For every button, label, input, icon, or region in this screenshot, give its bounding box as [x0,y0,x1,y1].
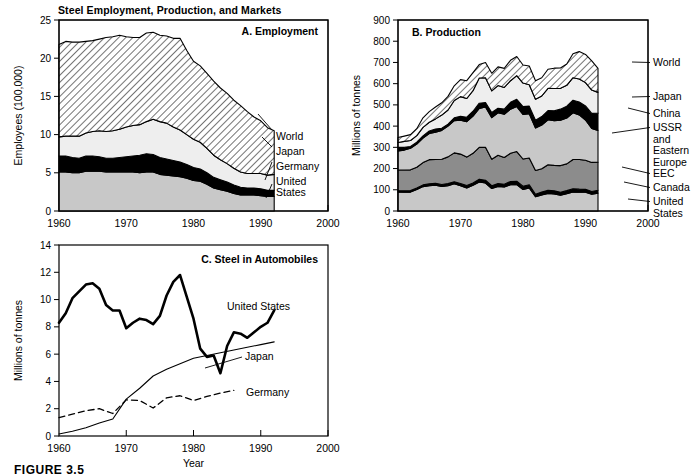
legend-leader [632,62,650,63]
panel-c-steel-in-automobiles: 0246810121419601970198019902000C. Steel … [0,232,360,475]
y-tick-label: 0 [45,206,51,217]
y-tick-label: 10 [40,294,52,305]
y-tick-label: 12 [40,267,52,278]
y-tick-label: 200 [373,163,390,174]
legend-label-b-united: States [653,207,683,219]
y-tick-label: 600 [373,78,390,89]
x-tick-label: 2000 [316,442,340,454]
x-tick-label: 1980 [511,217,535,229]
y-tick-label: 100 [373,184,390,195]
y-axis-label: Employees (100,000) [12,66,24,166]
figure-caption: FIGURE 3.5 [14,463,84,475]
x-tick-label: 1990 [249,442,273,454]
y-tick-label: 10 [40,129,52,140]
legend-leader [632,97,650,98]
y-tick-label: 0 [384,206,390,217]
legend-label-b-japan: Japan [653,90,682,102]
legend-label-b-ussr: Europe [653,156,687,168]
y-tick-label: 900 [373,15,390,26]
chart-b-svg: 0100200300400500600700800900196019701980… [340,0,692,232]
plot-frame [59,245,328,436]
y-tick-label: 4 [45,376,51,387]
x-tick-label: 1960 [47,217,71,229]
y-tick-label: 400 [373,121,390,132]
panel-b-production: 0100200300400500600700800900196019701980… [340,0,692,232]
panel-a-employment: Steel Employment, Production, and Market… [0,0,350,232]
legend-label-b-canada: Canada [653,181,690,193]
x-tick-label: 1990 [574,217,598,229]
x-axis-label: Year [183,457,205,469]
y-tick-label: 8 [45,321,51,332]
legend-label-a-japan: Japan [276,145,305,157]
panel-title: B. Production [412,26,481,38]
x-tick-label: 1990 [249,217,273,229]
legend-label-a-states: States [276,186,306,198]
y-tick-label: 6 [45,349,51,360]
y-tick-label: 14 [40,240,52,251]
legend-label-a-germany: Germany [276,160,320,172]
x-tick-label: 1980 [182,442,206,454]
panel-title: A. Employment [242,25,319,37]
x-tick-label: 1960 [47,442,71,454]
y-tick-label: 2 [45,403,51,414]
figure-title: Steel Employment, Production, and Market… [58,4,281,16]
y-axis-label: Millions of tonnes [12,300,24,381]
chart-a-svg: 051015202519601970198019902000A. Employm… [0,0,350,232]
legend-label-b-china: China [653,107,681,119]
x-tick-label: 2000 [316,217,340,229]
x-tick-label: 1980 [182,217,206,229]
panel-title: C. Steel in Automobiles [201,253,318,265]
legend-label-b-ussr: and [653,133,671,145]
y-tick-label: 15 [40,91,52,102]
legend-label-b-ussr: USSR [653,121,683,133]
legend-label-a-world: World [276,130,303,142]
legend-label-c-united-states: United States [227,300,290,312]
legend-label-b-eec: EEC [653,167,675,179]
x-tick-label: 1960 [386,217,410,229]
x-tick-label: 2000 [636,217,660,229]
y-axis-label: Millions of tonnes [350,75,362,156]
x-tick-label: 1970 [449,217,473,229]
y-tick-label: 25 [40,15,52,26]
legend-label-b-ussr: Eastern [653,144,689,156]
chart-c-svg: 0246810121419601970198019902000C. Steel … [0,232,360,475]
y-tick-label: 700 [373,57,390,68]
x-tick-label: 1970 [115,442,139,454]
y-tick-label: 0 [45,431,51,442]
x-tick-label: 1970 [115,217,139,229]
legend-label-c-japan: Japan [245,350,274,362]
y-tick-label: 300 [373,142,390,153]
y-tick-label: 800 [373,36,390,47]
legend-label-b-world: World [653,56,680,68]
y-tick-label: 20 [40,53,52,64]
legend-label-c-germany: Germany [246,386,290,398]
y-tick-label: 5 [45,167,51,178]
y-tick-label: 500 [373,99,390,110]
legend-label-b-united: United [653,195,684,207]
